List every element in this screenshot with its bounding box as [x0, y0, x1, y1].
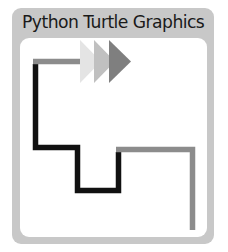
black-path — [36, 64, 119, 191]
turtle-arrow-icon — [80, 40, 131, 83]
turtle-drawing — [0, 0, 228, 252]
